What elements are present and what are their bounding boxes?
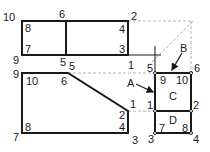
label-trap-inner-6: 6 bbox=[61, 75, 67, 87]
label-trap-inner-8: 8 bbox=[25, 121, 31, 133]
label-top-rect-top-right: 2 bbox=[131, 10, 137, 22]
label-d-bottom-right-4: 4 bbox=[193, 133, 199, 145]
label-top-rect-inner-7: 7 bbox=[25, 43, 31, 55]
label-c-inner-9: 9 bbox=[160, 74, 166, 86]
label-top-rect-inner-4: 4 bbox=[119, 23, 125, 35]
label-c-top-right-6: 6 bbox=[194, 62, 200, 74]
label-top-rect-top-left: 10 bbox=[3, 11, 15, 23]
label-c-mid-left-1: 1 bbox=[147, 99, 153, 111]
label-extension-5: 5 bbox=[147, 62, 153, 74]
label-trap-right-1: 1 bbox=[130, 98, 136, 110]
callout-arrow-b bbox=[172, 53, 182, 70]
callout-label-b: B bbox=[180, 42, 187, 54]
label-top-rect-top-mid: 6 bbox=[59, 8, 65, 20]
label-top-rect-bottom-mid: 5 bbox=[60, 56, 66, 68]
label-top-rect-inner-8: 8 bbox=[25, 22, 31, 34]
top-rectangle bbox=[22, 21, 128, 55]
label-d-inner-7: 7 bbox=[159, 122, 165, 134]
label-trap-top-mid-a: 5 bbox=[69, 60, 75, 72]
label-trap-inner-4: 4 bbox=[119, 121, 125, 133]
folding-net-diagram: 10 6 2 9 5 8 7 4 3 9 5 10 6 1 2 4 8 7 3 … bbox=[0, 0, 210, 152]
label-trap-top-left: 9 bbox=[13, 68, 19, 80]
label-d-bottom-left-3: 3 bbox=[148, 133, 154, 145]
label-d-inner-8: 8 bbox=[182, 122, 188, 134]
label-c-inner-10: 10 bbox=[176, 74, 188, 86]
label-top-rect-inner-3: 3 bbox=[119, 43, 125, 55]
label-trap-inner-2: 2 bbox=[119, 109, 125, 121]
label-box-c: C bbox=[169, 90, 177, 102]
label-c-mid-right-2: 2 bbox=[193, 99, 199, 111]
callout-arrow-a bbox=[136, 84, 153, 92]
label-trap-bottom-left: 7 bbox=[13, 131, 19, 143]
label-trap-bottom-right: 3 bbox=[132, 134, 138, 146]
label-trap-inner-10: 10 bbox=[26, 75, 38, 87]
callout-label-a: A bbox=[127, 77, 135, 89]
label-extension-1: 1 bbox=[128, 59, 134, 71]
label-box-d: D bbox=[169, 114, 177, 126]
label-top-rect-bottom-left: 9 bbox=[13, 54, 19, 66]
